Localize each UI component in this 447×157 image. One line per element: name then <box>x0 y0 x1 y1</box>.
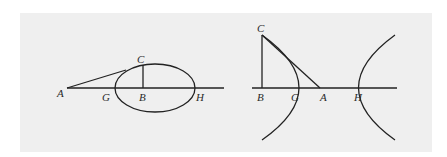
tangent-line-CA <box>262 35 320 88</box>
label-H: H <box>195 91 205 103</box>
label-C: C <box>137 53 145 65</box>
label-H: H <box>353 91 363 103</box>
label-A: A <box>56 87 64 99</box>
label-G: G <box>102 91 110 103</box>
label-A: A <box>319 91 327 103</box>
label-C: C <box>257 22 265 34</box>
diagram-canvas: A G B C H C B G A H <box>0 0 447 157</box>
ellipse-figure: A G B C H <box>56 53 224 112</box>
label-G: G <box>291 91 299 103</box>
label-B: B <box>257 91 264 103</box>
label-B: B <box>139 91 146 103</box>
hyperbola-figure: C B G A H <box>252 22 397 140</box>
